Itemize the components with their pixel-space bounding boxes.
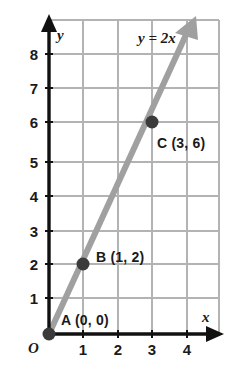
y-axis-label: y [57, 28, 64, 43]
y-axis-tick-label-4: 4 [25, 189, 43, 204]
point-label-a: A (0, 0) [61, 313, 109, 327]
y-axis-tick-label-6: 6 [25, 115, 43, 130]
data-point-a[interactable] [43, 328, 56, 341]
y-axis-tick-label-1: 1 [25, 291, 43, 306]
y-axis-tick-label-7: 7 [25, 81, 43, 96]
y-axis-tick-label-8: 8 [25, 47, 43, 62]
x-axis-tick-label-3: 3 [143, 342, 161, 357]
function-line-y-equals-2x [49, 16, 198, 334]
y-axis-tick-label-3: 3 [25, 224, 43, 239]
x-axis-tick-label-1: 1 [74, 342, 92, 357]
x-axis-arrow-icon [206, 326, 224, 342]
coordinate-plane-figure: 8 7 6 5 4 3 2 1 O 1 2 3 4 y x y = 2x A (… [0, 0, 229, 380]
x-axis-origin-label: O [28, 341, 39, 356]
point-label-c: C (3, 6) [157, 136, 205, 150]
data-point-b[interactable] [77, 258, 90, 271]
y-axis-arrow-icon [41, 14, 57, 32]
y-axis-tick-label-2: 2 [25, 257, 43, 272]
y-axis-tick-label-5: 5 [25, 155, 43, 170]
grid-vertical-lines [83, 20, 219, 334]
x-axis-tick-label-4: 4 [178, 342, 196, 357]
line-segment [49, 26, 190, 334]
x-axis-tick-label-2: 2 [109, 342, 127, 357]
data-point-c[interactable] [146, 116, 159, 129]
x-axis-label: x [202, 310, 210, 325]
point-label-b: B (1, 2) [96, 250, 144, 264]
equation-label: y = 2x [138, 31, 176, 46]
